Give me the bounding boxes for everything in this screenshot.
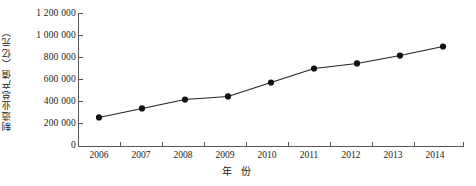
data-point: [139, 105, 145, 111]
data-point: [268, 79, 274, 85]
data-point: [354, 60, 360, 66]
x-axis-ticks: [121, 142, 464, 147]
data-point: [440, 43, 446, 49]
y-axis-ticks: [79, 14, 84, 124]
data-point: [397, 52, 403, 58]
data-point: [225, 93, 231, 99]
x-axis-title: 年 份: [0, 166, 476, 178]
data-markers: [96, 43, 446, 120]
data-point: [96, 114, 102, 120]
data-point: [311, 65, 317, 71]
data-point: [182, 96, 188, 102]
chart-figure: 制造业总产值（亿元） 1 200 000 1 000 000 800 000 6…: [0, 0, 476, 186]
plot-area: [0, 0, 476, 186]
